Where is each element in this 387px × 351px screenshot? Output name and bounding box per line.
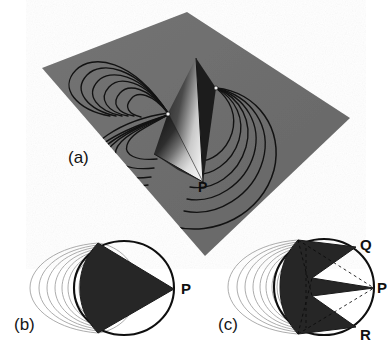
panel-label-a: (a): [68, 148, 89, 167]
panel-b: P (b): [14, 241, 191, 335]
point-label-c-R: R: [360, 326, 371, 343]
panel-label-b: (b): [14, 315, 35, 334]
figure-container: P (a) P: [0, 0, 387, 351]
panel-a: P (a): [42, 12, 350, 256]
focus-node-left: [166, 112, 170, 116]
point-label-c-P: P: [377, 279, 387, 296]
point-label-c-Q: Q: [360, 236, 372, 253]
point-label-b-P: P: [181, 280, 191, 297]
point-label-a-P: P: [198, 179, 207, 195]
panel-c: Q P R (c): [218, 236, 387, 343]
panel-label-c: (c): [218, 315, 238, 334]
focus-node-right: [214, 86, 218, 90]
figure-svg: P (a) P: [0, 0, 387, 351]
